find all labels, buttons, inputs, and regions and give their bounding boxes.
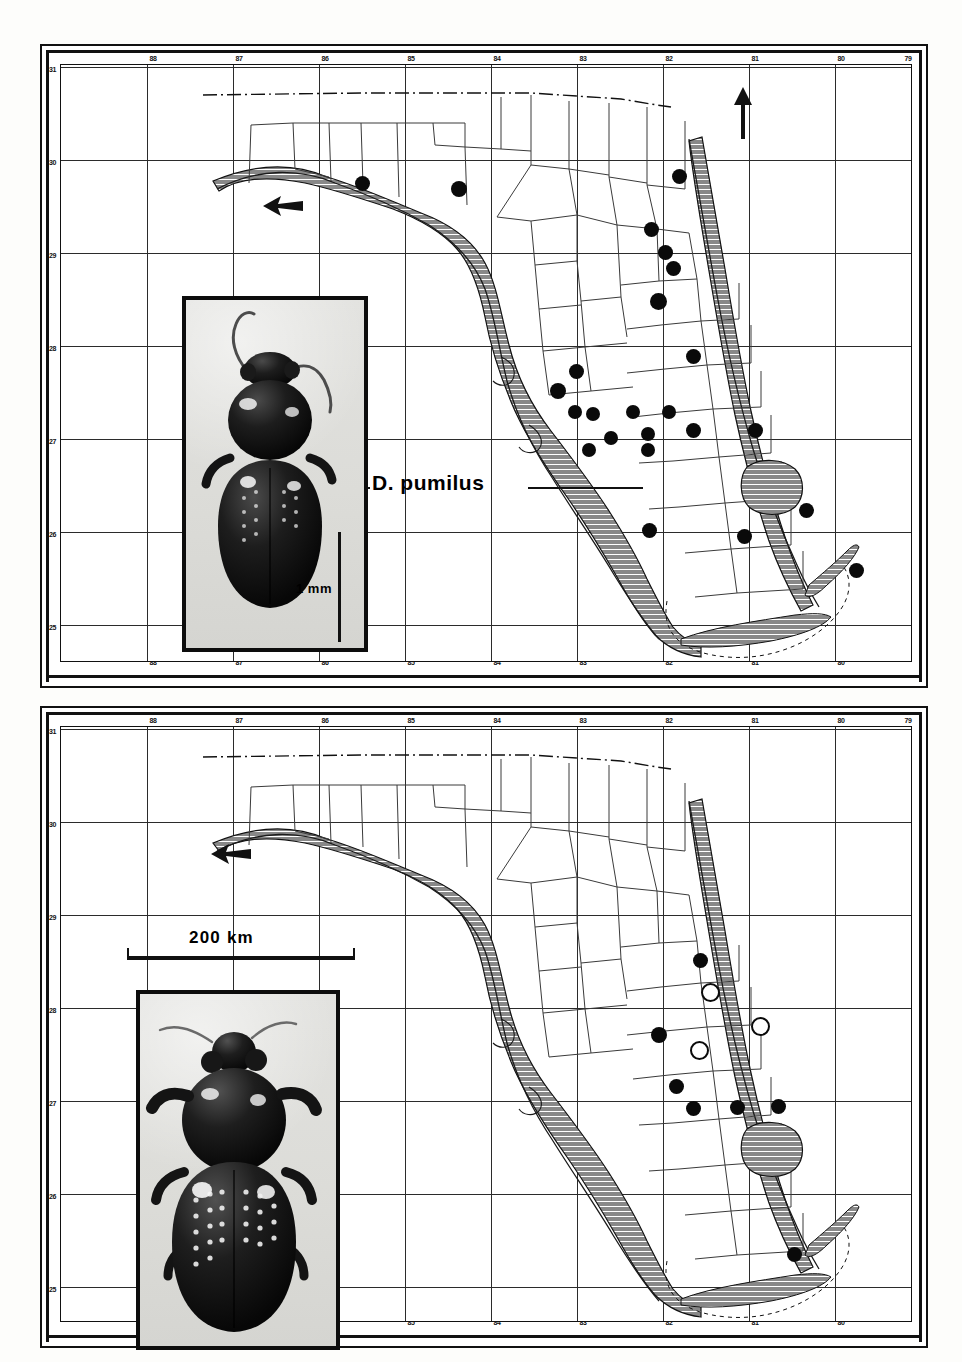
lon-tick: 84	[489, 717, 505, 725]
locality-dot-filled[interactable]	[669, 1079, 684, 1094]
locality-dot-filled[interactable]	[642, 523, 657, 538]
locality-dot-open[interactable]	[751, 1017, 770, 1036]
locality-dot-filled[interactable]	[662, 405, 676, 419]
locality-dot-filled[interactable]	[641, 427, 655, 441]
locality-dot-filled[interactable]	[787, 1247, 802, 1262]
panel-lower-top-rule	[46, 712, 922, 715]
locality-dot-filled[interactable]	[641, 443, 655, 457]
pointer-arrow-left-icon	[261, 193, 305, 219]
locality-dot-filled[interactable]	[451, 181, 467, 197]
locality-dot-filled[interactable]	[849, 563, 864, 578]
species-label-upper: D. pumilus	[372, 471, 484, 495]
scale-bar-label: 200 km	[189, 928, 254, 948]
lon-tick: 88	[145, 717, 161, 725]
locality-dot-filled[interactable]	[550, 383, 566, 399]
locality-dot-filled[interactable]	[658, 245, 673, 260]
lon-tick: 83	[575, 55, 591, 63]
locality-dot-filled[interactable]	[799, 503, 814, 518]
locality-dot-open[interactable]	[701, 983, 720, 1002]
lon-tick: 85	[403, 717, 419, 725]
scale-bar-line	[127, 956, 355, 960]
locality-dot-filled[interactable]	[686, 423, 701, 438]
beetle-habitus-illustration	[140, 994, 328, 1338]
lon-tick: 81	[747, 55, 763, 63]
lon-tick: 80	[833, 717, 849, 725]
lon-tick: 85	[403, 55, 419, 63]
locality-dot-filled[interactable]	[355, 176, 370, 191]
locality-dot-filled[interactable]	[737, 529, 752, 544]
locality-dot-filled[interactable]	[686, 1101, 701, 1116]
north-arrow-icon	[731, 85, 755, 141]
locality-dot-filled[interactable]	[568, 405, 582, 419]
lon-tick: 88	[145, 55, 161, 63]
locality-dot-filled[interactable]	[569, 364, 584, 379]
locality-dot-filled[interactable]	[666, 261, 681, 276]
specimen-photo-lower[interactable]	[136, 990, 340, 1350]
panel-upper-bottom-rule	[46, 675, 922, 678]
pointer-arrow-left-icon	[209, 841, 253, 867]
inset-scale-bar-upper	[338, 532, 341, 642]
lon-tick: 80	[833, 55, 849, 63]
locality-dot-filled[interactable]	[604, 431, 618, 445]
scale-bar-group: 200 km	[127, 928, 357, 976]
scale-bar-cap-left	[127, 948, 129, 960]
lon-tick: 86	[317, 55, 333, 63]
panel-lower: 88 87 86 85 84 83 82 81 80 79 85 84 83 8…	[40, 706, 928, 1348]
lon-tick: 84	[489, 55, 505, 63]
locality-dot-filled[interactable]	[748, 423, 763, 438]
locality-dot-filled[interactable]	[586, 407, 600, 421]
figure-plate: 88 87 86 85 84 83 82 81 80 79 88 87 86 8…	[0, 0, 962, 1362]
lon-tick: 87	[231, 717, 247, 725]
panel-upper-top-rule	[46, 50, 922, 53]
locality-dot-open[interactable]	[690, 1041, 709, 1060]
lon-tick: 81	[747, 717, 763, 725]
locality-dot-filled[interactable]	[771, 1099, 786, 1114]
locality-dot-filled[interactable]	[672, 169, 687, 184]
lon-tick: 82	[661, 55, 677, 63]
species-label-leader-right	[528, 487, 643, 489]
lon-tick: 87	[231, 55, 247, 63]
locality-dot-filled[interactable]	[651, 1027, 667, 1043]
panel-upper: 88 87 86 85 84 83 82 81 80 79 88 87 86 8…	[40, 44, 928, 688]
specimen-photo-upper[interactable]: 1 mm	[182, 296, 368, 652]
locality-dot-filled[interactable]	[650, 293, 667, 310]
locality-dot-filled[interactable]	[644, 222, 659, 237]
inset-scale-label-upper: 1 mm	[296, 581, 332, 596]
locality-dot-filled[interactable]	[686, 349, 701, 364]
scale-bar-cap-right	[353, 948, 355, 960]
lon-tick: 86	[317, 717, 333, 725]
locality-dot-filled[interactable]	[626, 405, 640, 419]
locality-dot-filled[interactable]	[693, 953, 708, 968]
locality-dot-filled[interactable]	[730, 1100, 745, 1115]
lon-tick: 83	[575, 717, 591, 725]
lon-tick: 82	[661, 717, 677, 725]
locality-dot-filled[interactable]	[582, 443, 596, 457]
